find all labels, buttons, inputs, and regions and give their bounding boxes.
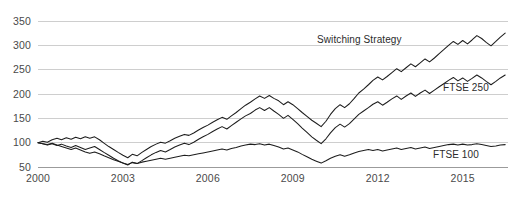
x-axis-tick-labels: 200020032006200920122015 <box>26 172 475 184</box>
y-tick-label: 50 <box>19 161 31 173</box>
y-axis-tick-labels: 50100150200250300350 <box>13 15 31 173</box>
y-tick-label: 300 <box>13 39 31 51</box>
series-label-ftse-250: FTSE 250 <box>443 82 489 93</box>
x-tick-label: 2009 <box>281 172 305 184</box>
y-tick-label: 150 <box>13 112 31 124</box>
x-tick-label: 2006 <box>196 172 220 184</box>
series-line-switching-strategy <box>38 33 505 158</box>
x-tick-label: 2003 <box>111 172 135 184</box>
y-tick-label: 200 <box>13 88 31 100</box>
series-label-switching-strategy: Switching Strategy <box>317 34 402 45</box>
line-chart: 50100150200250300350 2000200320062009201… <box>0 0 514 200</box>
series-label-ftse-100: FTSE 100 <box>433 149 479 160</box>
y-tick-label: 250 <box>13 63 31 75</box>
y-tick-label: 100 <box>13 136 31 148</box>
y-tick-label: 350 <box>13 15 31 27</box>
x-tick-label: 2015 <box>451 172 475 184</box>
chart-plot-area: 50100150200250300350 2000200320062009201… <box>0 0 514 200</box>
x-tick-label: 2000 <box>26 172 50 184</box>
series-group <box>38 33 505 165</box>
x-tick-label: 2012 <box>366 172 390 184</box>
